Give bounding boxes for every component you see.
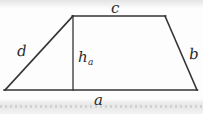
label-height-base: h: [78, 48, 88, 66]
label-side-c: c: [111, 1, 119, 16]
label-height-subscript: a: [88, 57, 93, 67]
label-side-a: a: [94, 93, 103, 108]
label-side-b: b: [189, 47, 199, 62]
label-side-d: d: [17, 44, 27, 59]
label-height: ha: [78, 50, 93, 67]
side-d-line: [5, 16, 73, 90]
trapezoid-figure: c d b a ha: [0, 0, 203, 114]
